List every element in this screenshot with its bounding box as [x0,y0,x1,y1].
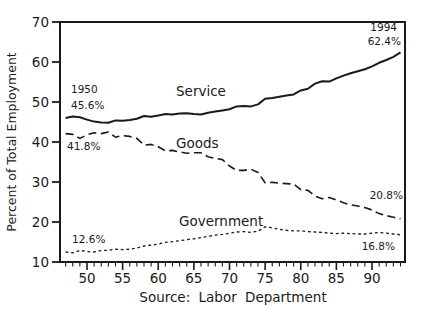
source-caption: Source: Labor Department [139,289,326,305]
annotation-end-service-value: 62.4% [368,35,401,47]
series-label-goods: Goods [176,135,219,151]
y-axis-title: Percent of Total Employment [4,52,19,232]
annotation-start-service-value: 45.6% [71,99,104,111]
y-tick-label: 70 [32,14,49,30]
y-tick-label: 50 [32,94,49,110]
annotation-start-goods-value: 41.8% [67,140,100,152]
series-label-service: Service [176,83,226,99]
x-tick-label: 55 [114,270,131,286]
x-tick-label: 60 [150,270,167,286]
x-tick-label: 50 [78,270,95,286]
y-tick-label: 10 [32,254,49,270]
y-tick-label: 20 [32,214,49,230]
annotation-end-government-value: 16.8% [362,240,395,252]
government-line [66,227,401,253]
annotation-end-goods-value: 20.8% [370,189,403,201]
annotation-end-year: 1994 [370,21,397,33]
service-line [66,52,401,122]
employment-share-chart: 70605040302010505560657075808590 Percent… [0,0,429,320]
x-tick-label: 85 [328,270,345,286]
x-tick-label: 75 [257,270,274,286]
y-tick-label: 60 [32,54,49,70]
x-tick-label: 80 [292,270,309,286]
y-tick-label: 40 [32,134,49,150]
employment-share-figure: 70605040302010505560657075808590 Percent… [0,0,429,320]
y-tick-label: 30 [32,174,49,190]
annotation-start-government-value: 12.6% [72,233,105,245]
series-label-government: Government [179,213,263,229]
annotation-start-year: 1950 [71,83,98,95]
goods-line [66,132,401,219]
x-tick-label: 65 [185,270,202,286]
x-tick-label: 90 [363,270,380,286]
x-tick-label: 70 [221,270,238,286]
